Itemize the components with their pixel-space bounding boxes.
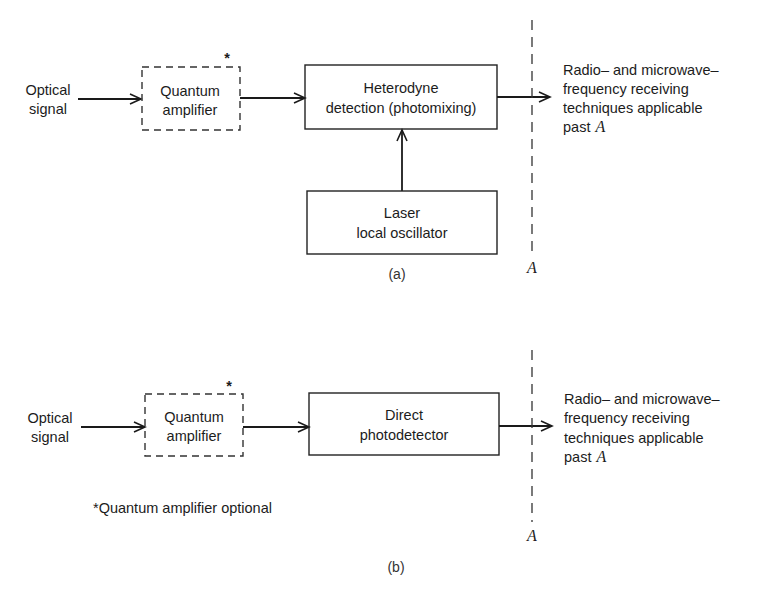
input-label-line2: signal (29, 101, 67, 117)
arrow-output (497, 92, 550, 102)
caption-b: (b) (387, 559, 404, 575)
quantum-amplifier-block: Quantum amplifier * (142, 50, 240, 130)
footnote-optional-amplifier: *Quantum amplifier optional (93, 500, 272, 516)
output-label-line1: Radio– and microwave– (563, 62, 719, 78)
output-description: Radio– and microwave– frequency receivin… (563, 62, 719, 135)
amplifier-label-line2: amplifier (163, 102, 218, 118)
oscillator-label-line1: Laser (384, 205, 420, 221)
arrow-amplifier-to-detector (243, 422, 309, 432)
arrow-output (499, 421, 552, 431)
arrow-input-to-amplifier (81, 422, 145, 432)
detector-label-line2: detection (photomixing) (326, 100, 477, 116)
output-label-line2: frequency receiving (563, 81, 689, 97)
boundary-label: A (526, 259, 537, 276)
output-label-line2: frequency receiving (564, 410, 690, 426)
detector-label-line1: Heterodyne (364, 80, 439, 96)
oscillator-label-line2: local oscillator (356, 225, 447, 241)
detector-label-line1: Direct (385, 407, 423, 423)
amplifier-label-line1: Quantum (160, 83, 220, 99)
output-label-line4: pastA (563, 118, 605, 135)
output-label-line3: techniques applicable (563, 100, 702, 116)
input-label-line2: signal (31, 429, 69, 445)
input-label: Optical signal (27, 410, 72, 445)
optional-asterisk: * (224, 50, 230, 66)
input-label: Optical signal (25, 82, 70, 117)
amplifier-label-line2: amplifier (167, 428, 222, 444)
laser-local-oscillator-block: Laser local oscillator (307, 191, 497, 254)
boundary-label: A (526, 527, 537, 544)
output-label-line3: techniques applicable (564, 430, 703, 446)
block-diagram: Optical signal Quantum amplifier * Heter… (0, 0, 777, 597)
arrow-amplifier-to-detector (240, 93, 305, 103)
input-label-line1: Optical (27, 410, 72, 426)
boundary-line-a: A (526, 350, 537, 544)
amplifier-label-line1: Quantum (164, 409, 224, 425)
diagram-b: Optical signal Quantum amplifier * Direc… (27, 350, 720, 575)
output-label-line4: pastA (564, 448, 606, 465)
arrow-oscillator-to-detector (397, 130, 407, 191)
boundary-line-a: A (526, 20, 537, 276)
input-label-line1: Optical (25, 82, 70, 98)
caption-a: (a) (388, 266, 405, 282)
diagram-a: Optical signal Quantum amplifier * Heter… (25, 20, 719, 282)
direct-photodetector-block: Direct photodetector (309, 393, 499, 455)
quantum-amplifier-block: Quantum amplifier * (145, 378, 243, 456)
output-label-line1: Radio– and microwave– (564, 391, 720, 407)
detector-label-line2: photodetector (360, 427, 449, 443)
output-description: Radio– and microwave– frequency receivin… (564, 391, 720, 465)
arrow-input-to-amplifier (78, 94, 141, 104)
heterodyne-detection-block: Heterodyne detection (photomixing) (305, 65, 497, 129)
optional-asterisk: * (226, 378, 232, 394)
